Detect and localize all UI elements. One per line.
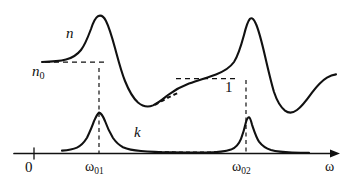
n-curve-label: n bbox=[66, 26, 74, 41]
k-curve-label: k bbox=[134, 125, 141, 140]
plot-area bbox=[0, 0, 344, 187]
omega02-tick-label: ω02 bbox=[232, 160, 251, 176]
n0-base: n bbox=[32, 63, 40, 79]
n-curve bbox=[42, 16, 336, 113]
omega01-tick-label: ω01 bbox=[85, 160, 104, 176]
omega02-subscript: 02 bbox=[241, 166, 251, 176]
x-axis-arrowhead bbox=[330, 149, 340, 157]
omega01-base: ω bbox=[85, 159, 94, 174]
n0-baseline-label: n0 bbox=[32, 64, 45, 81]
origin-label: 0 bbox=[25, 160, 33, 175]
omega01-subscript: 01 bbox=[94, 166, 104, 176]
unity-level-label: 1 bbox=[225, 80, 233, 95]
n0-subscript: 0 bbox=[40, 70, 45, 81]
x-axis-label: ω bbox=[325, 160, 334, 174]
dispersion-figure: n n0 k 1 0 ω01 ω02 ω bbox=[0, 0, 344, 187]
omega02-base: ω bbox=[232, 159, 241, 174]
